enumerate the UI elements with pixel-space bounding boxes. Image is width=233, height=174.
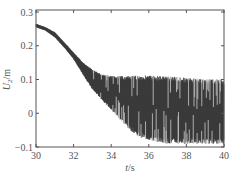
chart: 303234363840 −0.100.10.20.3 t/s U2/m <box>0 0 233 174</box>
y-tick-label: 0 <box>28 108 33 119</box>
y-axis-label: U2/m <box>1 69 14 91</box>
x-axis-label: t/s <box>125 162 135 173</box>
x-tick-label: 36 <box>144 150 154 161</box>
y-tick-label: 0.3 <box>21 7 34 18</box>
x-tick-label: 40 <box>219 150 229 161</box>
signal-series <box>36 24 224 144</box>
signal-line <box>36 24 224 144</box>
y-tick-label: 0.1 <box>21 74 34 85</box>
y-tick-label: −0.1 <box>15 142 33 153</box>
x-tick-label: 38 <box>181 150 191 161</box>
x-tick-label: 32 <box>69 150 79 161</box>
y-tick-label: 0.2 <box>21 40 34 51</box>
x-tick-label: 34 <box>106 150 116 161</box>
